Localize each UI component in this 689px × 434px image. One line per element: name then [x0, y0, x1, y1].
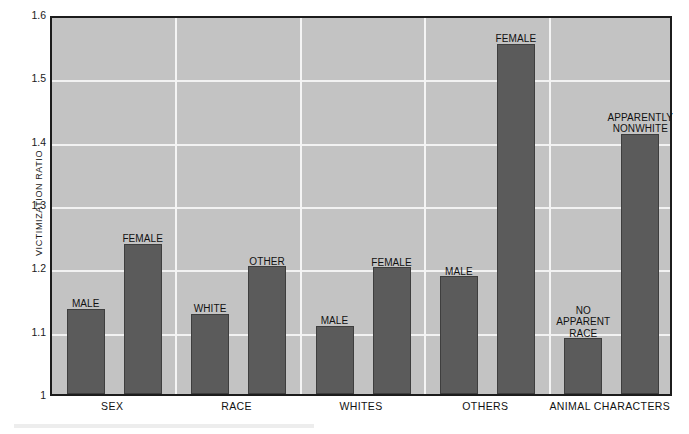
x-axis-group-label: ANIMAL CHARACTERS [548, 400, 672, 412]
y-axis-tick-labels: 1.61.51.41.31.21.11 [14, 0, 46, 434]
x-axis-group-label: RACE [174, 400, 298, 412]
gridline [52, 207, 670, 209]
y-axis-tick-label: 1.4 [20, 137, 46, 148]
bar [373, 267, 411, 394]
scan-artifact-strip [14, 424, 314, 428]
bar [440, 276, 478, 394]
plot-area: MALEFEMALEWHITEOTHERMALEFEMALEMALEFEMALE… [50, 16, 672, 396]
bar-value-label: MALE [289, 315, 381, 327]
bar [497, 44, 535, 394]
bar-value-label: MALE [40, 298, 132, 310]
bar [248, 266, 286, 394]
bar-value-label: APPARENTLY NONWHITE [594, 112, 686, 135]
group-separator [300, 18, 302, 394]
bar-value-label: FEMALE [97, 233, 189, 245]
x-axis-group-label: SEX [50, 400, 174, 412]
bar-value-label: WHITE [164, 303, 256, 315]
gridline [52, 80, 670, 82]
bar-value-label: OTHER [221, 256, 313, 268]
group-separator [175, 18, 177, 394]
plot-inner: MALEFEMALEWHITEOTHERMALEFEMALEMALEFEMALE… [52, 18, 670, 394]
y-axis-tick-label: 1.2 [20, 263, 46, 274]
y-axis-tick-label: 1.3 [20, 200, 46, 211]
bar [124, 244, 162, 394]
bar-value-label: NO APPARENT RACE [537, 305, 629, 340]
x-axis-group-label: WHITES [299, 400, 423, 412]
y-axis-tick-label: 1.1 [20, 327, 46, 338]
group-separator [424, 18, 426, 394]
bar [564, 338, 602, 394]
y-axis-tick-label: 1.6 [20, 10, 46, 21]
bar [316, 326, 354, 394]
y-axis-tick-label: 1.5 [20, 73, 46, 84]
bar-value-label: MALE [413, 266, 505, 278]
bar-chart-figure: VICTIMIZATION RATIO 1.61.51.41.31.21.11 … [0, 0, 689, 434]
y-axis-tick-label: 1 [20, 390, 46, 401]
x-axis-group-labels: SEXRACEWHITESOTHERSANIMAL CHARACTERS [50, 400, 672, 422]
bar [621, 134, 659, 394]
x-axis-group-label: OTHERS [423, 400, 547, 412]
bar [67, 309, 105, 395]
bar [191, 314, 229, 394]
gridline [52, 144, 670, 146]
bar-value-label: FEMALE [470, 33, 562, 45]
